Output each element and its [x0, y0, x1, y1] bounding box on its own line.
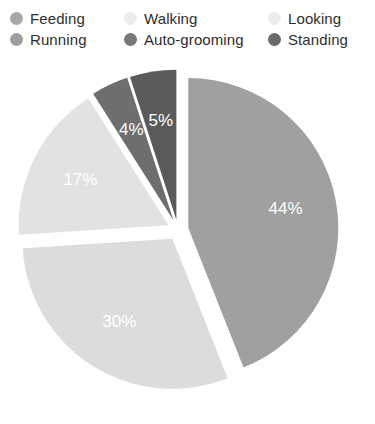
- pie-slice-group: [19, 70, 339, 389]
- pie-slice-value-running: 4%: [119, 120, 144, 139]
- legend-label-feeding: Feeding: [30, 11, 85, 26]
- legend-swatch-running-icon: [10, 33, 23, 46]
- pie-svg: 44%30%17%4%5%: [0, 48, 375, 424]
- pie-slice-value-looking: 17%: [63, 170, 97, 189]
- legend-label-standing: Standing: [288, 32, 348, 47]
- legend-label-auto-grooming: Auto-grooming: [144, 32, 244, 47]
- pie-slice-value-standing: 5%: [149, 111, 174, 130]
- legend-label-running: Running: [30, 32, 87, 47]
- legend-swatch-walking-icon: [124, 12, 137, 25]
- legend-column-1: Feeding Running: [10, 8, 87, 50]
- legend-item-walking[interactable]: Walking: [124, 8, 244, 29]
- legend-swatch-looking-icon: [268, 12, 281, 25]
- legend-column-3: Looking Standing: [268, 8, 348, 50]
- legend-label-walking: Walking: [144, 11, 198, 26]
- legend-item-standing[interactable]: Standing: [268, 29, 348, 50]
- legend-item-auto-grooming[interactable]: Auto-grooming: [124, 29, 244, 50]
- legend-item-looking[interactable]: Looking: [268, 8, 348, 29]
- pie-slice-feeding[interactable]: [188, 78, 338, 367]
- pie-chart-figure: Feeding Running Walking Auto-grooming Lo…: [0, 0, 375, 424]
- legend-item-running[interactable]: Running: [10, 29, 87, 50]
- legend-swatch-standing-icon: [268, 33, 281, 46]
- pie-slice-value-walking: 30%: [102, 312, 136, 331]
- chart-legend: Feeding Running Walking Auto-grooming Lo…: [0, 0, 375, 52]
- legend-column-2: Walking Auto-grooming: [124, 8, 244, 50]
- legend-item-feeding[interactable]: Feeding: [10, 8, 87, 29]
- pie-slice-value-feeding: 44%: [269, 199, 303, 218]
- pie-plot-area: 44%30%17%4%5%: [0, 48, 375, 424]
- legend-swatch-feeding-icon: [10, 12, 23, 25]
- legend-label-looking: Looking: [288, 11, 341, 26]
- legend-swatch-auto-grooming-icon: [124, 33, 137, 46]
